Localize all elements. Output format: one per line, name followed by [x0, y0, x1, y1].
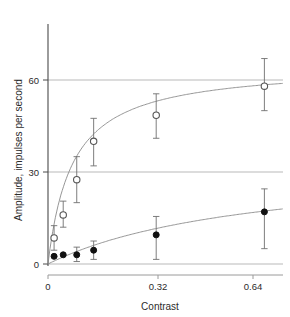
y-tick-label-30: 30: [28, 167, 39, 178]
y-axis-title: Amplitude, impulses per second: [13, 79, 24, 221]
chart-background: [0, 0, 290, 317]
data-point-filled: [60, 252, 66, 258]
y-tick-label-60: 60: [28, 75, 39, 86]
x-tick-label-064: 0.64: [244, 281, 263, 292]
chart-canvas: 60 30 0 0 0.32 0.64 Contrast Amplitude, …: [0, 0, 290, 317]
data-point-open: [74, 176, 80, 182]
data-point-open: [153, 112, 159, 118]
data-point-filled: [153, 232, 159, 238]
data-point-open: [60, 212, 66, 218]
data-point-filled: [74, 252, 80, 258]
data-point-open: [90, 138, 96, 144]
data-point-filled: [91, 247, 97, 253]
x-tick-label-0: 0: [45, 281, 50, 292]
data-point-filled: [51, 253, 57, 259]
x-tick-label-032: 0.32: [149, 281, 168, 292]
data-point-open: [51, 235, 57, 241]
y-tick-label-0: 0: [34, 259, 39, 270]
x-axis-title: Contrast: [141, 301, 179, 312]
data-point-open: [261, 83, 267, 89]
data-point-filled: [261, 209, 267, 215]
contrast-response-figure: 60 30 0 0 0.32 0.64 Contrast Amplitude, …: [0, 0, 290, 317]
